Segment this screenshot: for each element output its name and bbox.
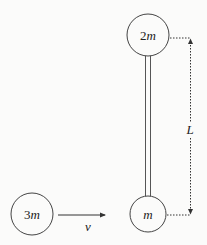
- svg-text:2m: 2m: [140, 28, 156, 43]
- arrowhead-down-icon: [188, 209, 193, 215]
- incoming-mass-variable: m: [31, 207, 40, 222]
- length-label: L: [185, 122, 193, 137]
- velocity-label: v: [85, 219, 91, 234]
- bottom-mass: m: [130, 196, 166, 232]
- incoming-mass: 3m: [11, 193, 53, 235]
- velocity-arrow: v: [58, 215, 105, 234]
- arrowhead-up-icon: [188, 39, 193, 45]
- top-mass: 2m: [127, 14, 169, 56]
- bottom-mass-label: m: [143, 207, 152, 222]
- top-mass-variable: m: [147, 28, 156, 43]
- rigid-rod: [146, 55, 151, 197]
- diagram-canvas: 2m m 3m v L: [0, 0, 207, 245]
- length-dimension: L: [167, 38, 198, 215]
- svg-text:3m: 3m: [24, 207, 40, 222]
